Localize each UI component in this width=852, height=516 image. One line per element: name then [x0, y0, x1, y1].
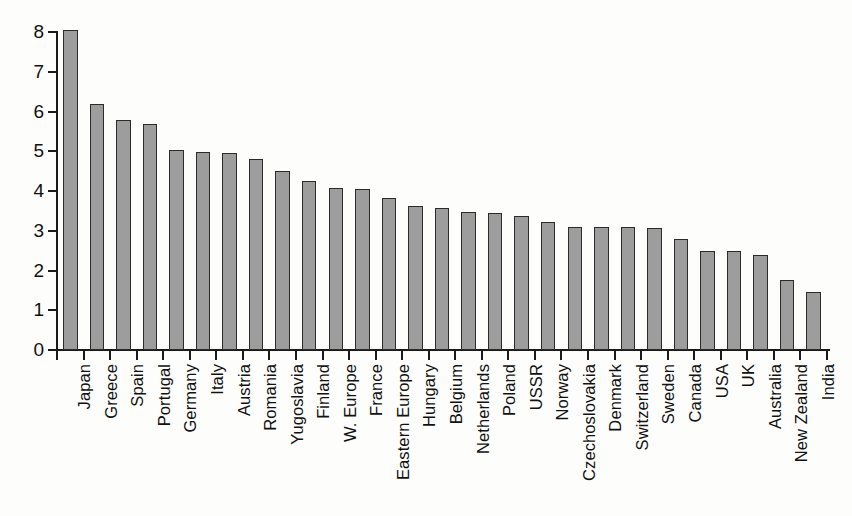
x-axis-label: Italy: [209, 364, 226, 395]
bar: [382, 198, 397, 350]
bar: [780, 280, 795, 350]
x-axis-label: USSR: [528, 364, 545, 410]
bar-chart: 012345678 JapanGreeceSpainPortugalGerman…: [0, 0, 852, 516]
bar: [806, 292, 821, 350]
bar: [90, 104, 105, 350]
bar: [249, 159, 264, 350]
x-axis-label: Norway: [554, 364, 571, 421]
x-axis-label: USA: [714, 364, 731, 398]
x-axis-label: Switzerland: [634, 364, 651, 450]
bar: [408, 206, 423, 350]
x-axis-label: New Zealand: [793, 364, 810, 462]
x-axis-label: Greece: [103, 364, 120, 419]
bar: [329, 188, 344, 350]
bar: [700, 251, 715, 350]
x-axis-label: Australia: [767, 364, 784, 429]
x-axis-label: W. Europe: [342, 364, 359, 442]
bar: [355, 189, 370, 350]
x-axis-label: Sweden: [660, 364, 677, 424]
bar: [63, 30, 78, 350]
bar: [143, 124, 158, 350]
bar: [302, 181, 317, 350]
bar: [753, 255, 768, 350]
bar: [621, 227, 636, 350]
bar: [196, 152, 211, 350]
bar: [222, 153, 237, 350]
bar: [116, 120, 131, 350]
x-axis-label: India: [820, 364, 837, 400]
x-axis-label: Eastern Europe: [395, 364, 412, 480]
x-axis-label: Japan: [76, 364, 93, 409]
bar: [594, 227, 609, 350]
x-axis-label: Finland: [315, 364, 332, 419]
x-axis-label: Canada: [687, 364, 704, 422]
bars-layer: [0, 0, 852, 516]
x-axis-label: Austria: [236, 364, 253, 416]
x-axis-label: Yugoslavia: [289, 364, 306, 445]
bar: [169, 150, 184, 350]
bar: [435, 208, 450, 350]
x-axis-label: Denmark: [607, 364, 624, 432]
x-axis-label: Netherlands: [475, 364, 492, 454]
x-axis-label: Belgium: [448, 364, 465, 424]
bar: [568, 227, 583, 350]
bar: [488, 213, 503, 350]
bar: [514, 216, 529, 350]
bar: [647, 228, 662, 350]
x-axis-label: Spain: [129, 364, 146, 407]
x-axis-label: France: [368, 364, 385, 416]
x-axis-label: Romania: [262, 364, 279, 431]
bar: [275, 171, 290, 350]
x-axis-label: Czechoslovakia: [581, 364, 598, 481]
bar: [541, 222, 556, 350]
bar: [674, 239, 689, 350]
x-axis-label: Germany: [182, 364, 199, 433]
x-axis-label: Portugal: [156, 364, 173, 426]
bar: [461, 212, 476, 350]
bar: [727, 251, 742, 350]
x-axis-label: UK: [740, 364, 757, 387]
x-axis-label: Poland: [501, 364, 518, 416]
x-axis-label: Hungary: [421, 364, 438, 427]
